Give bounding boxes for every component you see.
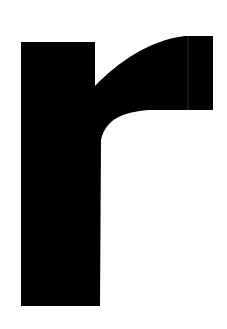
letter-r-glyph: [0, 0, 227, 329]
letter-r-shape: [21, 36, 213, 306]
